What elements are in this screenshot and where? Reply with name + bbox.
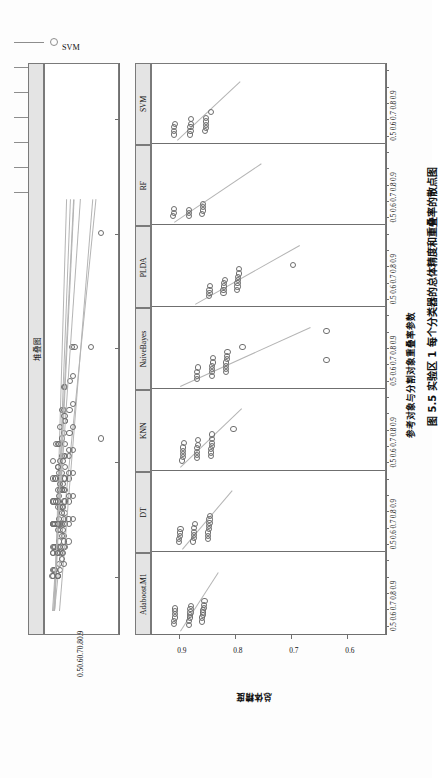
axis-tick xyxy=(115,234,119,235)
data-point xyxy=(66,407,72,413)
axis-tick xyxy=(386,511,389,512)
data-point xyxy=(61,561,67,567)
axis-tick xyxy=(386,446,389,447)
data-point xyxy=(98,435,104,441)
data-point xyxy=(71,344,77,350)
data-point xyxy=(70,424,76,430)
main-panel-plot-area xyxy=(152,64,385,634)
axis-tick xyxy=(386,250,389,251)
axis-tick xyxy=(386,397,389,398)
data-point xyxy=(171,206,177,212)
data-point xyxy=(209,431,215,437)
data-point xyxy=(50,550,56,556)
axis-tick xyxy=(386,413,389,414)
data-point xyxy=(61,413,67,419)
axis-tick xyxy=(115,348,119,349)
data-point xyxy=(323,328,329,334)
axis-tick xyxy=(386,528,389,529)
axis-tick xyxy=(386,266,389,267)
axis-tick xyxy=(386,70,389,71)
data-point xyxy=(172,121,178,127)
axis-tick xyxy=(386,462,389,463)
axis-tick xyxy=(386,185,389,186)
axis-tick xyxy=(235,635,236,639)
axis-tick xyxy=(386,430,389,431)
axis-tick xyxy=(386,217,389,218)
axis-tick xyxy=(291,635,292,639)
data-point xyxy=(177,526,183,532)
data-point xyxy=(59,556,65,562)
axis-tick xyxy=(386,136,389,137)
axis-tick xyxy=(386,283,389,284)
data-point xyxy=(59,510,65,516)
strip-label-plda: PLDA xyxy=(135,226,151,308)
axis-tick xyxy=(386,593,389,594)
data-point xyxy=(70,373,76,379)
data-point xyxy=(61,516,67,522)
y-axis-title: 总体精度 xyxy=(236,692,272,704)
axis-tick xyxy=(386,495,389,496)
axis-tick xyxy=(386,299,389,300)
figure-caption: 图 5.5 实验区 1 每个分类器的总体精度和重叠率的散点图 xyxy=(424,167,439,426)
strip-label-dt: DT xyxy=(135,472,151,554)
strip-label-adaboost-m1: Adaboost.M1 xyxy=(135,553,151,635)
axis-tick xyxy=(386,168,389,169)
data-point xyxy=(53,475,59,481)
axis-tick xyxy=(386,381,389,382)
axis-tick xyxy=(115,119,119,120)
stacked-panel xyxy=(44,63,119,635)
axis-tick xyxy=(386,201,389,202)
legend-line-icon xyxy=(14,42,44,43)
data-point xyxy=(50,498,56,504)
axis-tick xyxy=(115,462,119,463)
y-tick-label: 0.8 xyxy=(224,646,242,655)
axis-tick xyxy=(386,479,389,480)
data-point xyxy=(181,440,187,446)
axis-tick xyxy=(386,315,389,316)
strip-label-stacked: 堆叠图 xyxy=(28,63,44,635)
data-point xyxy=(290,262,296,268)
axis-tick xyxy=(386,332,389,333)
data-point xyxy=(195,437,201,443)
data-point xyxy=(239,344,245,350)
stacked-panel-plot-area xyxy=(45,64,118,634)
data-point xyxy=(66,493,72,499)
legend-item: SVM xyxy=(12,29,108,54)
axis-tick xyxy=(386,152,389,153)
data-point xyxy=(59,533,65,539)
data-point xyxy=(66,470,72,476)
axis-tick xyxy=(386,234,389,235)
x-tick-group-labels: 0.5 0.6 0.7 0.8 0.9 xyxy=(390,499,398,549)
panel-separator xyxy=(152,306,385,307)
data-point xyxy=(208,109,214,115)
x-tick-group-labels: 0.5 0.6 0.7 0.8 0.9 xyxy=(390,336,398,386)
data-point xyxy=(210,355,216,361)
axis-line xyxy=(119,63,120,635)
data-point xyxy=(207,283,213,289)
data-point xyxy=(230,426,236,432)
x-tick-group-labels: 0.5 0.6 0.7 0.8 0.9 xyxy=(390,91,398,141)
data-point xyxy=(61,538,67,544)
panel-separator xyxy=(152,388,385,389)
x-tick-group-labels: 0.5 0.6 0.7 0.8 0.9 xyxy=(390,581,398,631)
strip-label-knn: KNN xyxy=(135,390,151,472)
strip-label-svm: SVM xyxy=(135,63,151,145)
y-tick-label: 0.7 xyxy=(280,646,298,655)
panel-separator xyxy=(152,470,385,471)
panel-separator xyxy=(152,551,385,552)
axis-tick xyxy=(386,87,389,88)
data-point xyxy=(66,447,72,453)
data-point xyxy=(60,527,66,533)
axis-tick-labels: 0.50.60.70.80.9 xyxy=(76,631,85,677)
axis-tick xyxy=(386,610,389,611)
axis-tick xyxy=(386,364,389,365)
axis-tick xyxy=(179,635,180,639)
axis-tick xyxy=(386,544,389,545)
axis-tick xyxy=(386,103,389,104)
panel-separator xyxy=(152,143,385,144)
axis-tick xyxy=(386,577,389,578)
data-point xyxy=(98,230,104,236)
axis-tick xyxy=(115,577,119,578)
